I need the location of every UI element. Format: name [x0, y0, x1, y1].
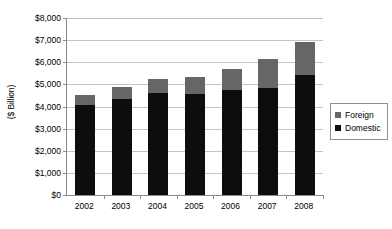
bar-segment-domestic — [185, 94, 205, 195]
bar-chart: ($ Billion) $0$1,000$2,000$3,000$4,000$5… — [0, 0, 392, 229]
legend-item-foreign: Foreign — [335, 109, 384, 121]
y-axis-tick-label: $0 — [9, 191, 61, 200]
x-axis-tick — [177, 195, 178, 199]
x-axis-label: 2004 — [148, 201, 167, 211]
x-axis-tick — [140, 195, 141, 199]
bar-stack — [222, 69, 242, 195]
x-axis-tick — [286, 195, 287, 199]
y-axis-tick-label: $2,000 — [9, 146, 61, 155]
plot-area: $0$1,000$2,000$3,000$4,000$5,000$6,000$7… — [66, 18, 323, 196]
legend-swatch-domestic-icon — [335, 125, 341, 131]
bar-segment-domestic — [112, 99, 132, 195]
bar-segment-foreign — [258, 59, 278, 88]
x-axis-tick — [104, 195, 105, 199]
legend-item-domestic: Domestic — [335, 122, 384, 134]
bar-segment-foreign — [148, 79, 168, 93]
bar-group — [185, 18, 205, 195]
bar-group — [295, 18, 315, 195]
x-axis-tick — [213, 195, 214, 199]
x-axis-label: 2005 — [185, 201, 204, 211]
bar-stack — [148, 79, 168, 195]
bars-layer — [67, 18, 323, 195]
bar-segment-foreign — [112, 87, 132, 99]
bar-segment-foreign — [75, 95, 95, 106]
bar-group — [258, 18, 278, 195]
bar-group — [75, 18, 95, 195]
bar-segment-foreign — [185, 77, 205, 94]
legend-swatch-foreign-icon — [335, 112, 341, 118]
bar-segment-domestic — [75, 105, 95, 195]
bar-stack — [185, 77, 205, 195]
x-axis-label: 2008 — [294, 201, 313, 211]
y-axis-tick-label: $8,000 — [9, 14, 61, 23]
legend-label-foreign: Foreign — [345, 111, 374, 120]
x-axis-label: 2002 — [75, 201, 94, 211]
y-axis-tick-label: $5,000 — [9, 80, 61, 89]
x-axis-tick — [323, 195, 324, 199]
y-axis-tick-label: $7,000 — [9, 36, 61, 45]
chart-legend: Foreign Domestic — [330, 103, 388, 140]
bar-segment-domestic — [222, 90, 242, 195]
y-axis-tick-label: $1,000 — [9, 168, 61, 177]
bar-segment-domestic — [295, 75, 315, 195]
legend-label-domestic: Domestic — [345, 124, 380, 133]
bar-segment-foreign — [295, 42, 315, 75]
bar-group — [222, 18, 242, 195]
y-axis-tick — [63, 195, 67, 196]
x-axis-tick — [250, 195, 251, 199]
x-axis-label: 2006 — [221, 201, 240, 211]
bar-stack — [258, 59, 278, 195]
y-axis-tick-label: $3,000 — [9, 124, 61, 133]
bar-stack — [295, 42, 315, 195]
bar-segment-domestic — [148, 93, 168, 195]
bar-group — [112, 18, 132, 195]
bar-stack — [75, 95, 95, 195]
bar-stack — [112, 87, 132, 195]
x-axis-label: 2003 — [111, 201, 130, 211]
y-axis-tick-label: $6,000 — [9, 58, 61, 67]
bar-segment-domestic — [258, 88, 278, 195]
bar-group — [148, 18, 168, 195]
bar-segment-foreign — [222, 69, 242, 90]
x-axis-label: 2007 — [258, 201, 277, 211]
y-axis-tick-label: $4,000 — [9, 102, 61, 111]
